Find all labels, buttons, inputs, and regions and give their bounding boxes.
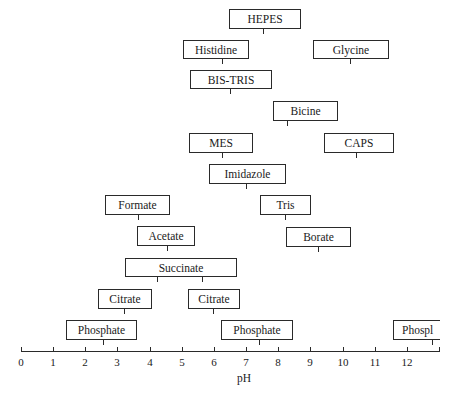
axis-title: pH (237, 372, 251, 384)
axis-tick (375, 347, 376, 352)
buffer-label: Phosphate (78, 324, 125, 336)
axis-tick (85, 347, 86, 352)
axis-tick-label: 12 (402, 356, 413, 368)
axis-tick (214, 347, 215, 352)
buffer-label: Phosphate (233, 324, 280, 336)
buffer-label: MES (209, 137, 233, 149)
buffer-box-bicine: Bicine (273, 101, 338, 121)
buffer-label: Glycine (333, 44, 369, 56)
pka-tick (432, 340, 433, 345)
axis-tick (310, 347, 311, 352)
buffer-box-imidazole: Imidazole (209, 164, 286, 184)
buffer-box-phospl: Phospl (393, 320, 440, 340)
pka-tick (103, 340, 104, 345)
axis-tick-label: 3 (114, 356, 120, 368)
buffer-box-phosphate: Phosphate (221, 320, 293, 340)
buffer-box-bis-tris: BIS-TRIS (190, 70, 272, 89)
buffer-label: Histidine (195, 44, 237, 56)
buffer-ph-range-diagram: HEPESHistidineGlycineBIS-TRISBicineMESCA… (0, 0, 455, 399)
pka-tick (285, 215, 286, 220)
buffer-box-borate: Borate (286, 227, 351, 247)
axis-tick-label: 7 (243, 356, 249, 368)
pka-tick (263, 29, 264, 34)
buffer-box-formate: Formate (105, 195, 170, 215)
axis-tick (246, 347, 247, 352)
pka-tick (157, 277, 158, 282)
pka-tick (318, 247, 319, 252)
buffer-box-succinate: Succinate (125, 258, 237, 277)
pka-tick (202, 277, 203, 282)
buffer-label: Acetate (148, 230, 183, 242)
pka-tick (356, 153, 357, 158)
buffer-box-tris: Tris (260, 195, 311, 215)
buffer-label: Succinate (159, 262, 204, 274)
pka-tick (230, 89, 231, 94)
axis-tick-label: 6 (211, 356, 217, 368)
buffer-label: Imidazole (225, 168, 271, 180)
buffer-label: Phospl (402, 324, 433, 336)
buffer-box-histidine: Histidine (183, 40, 249, 59)
pka-tick (287, 121, 288, 126)
axis-tick (21, 347, 22, 352)
pka-tick (246, 184, 247, 189)
axis-tick-label: 2 (82, 356, 88, 368)
buffer-label: BIS-TRIS (208, 74, 255, 86)
buffer-box-mes: MES (189, 133, 253, 153)
pka-tick (259, 340, 260, 345)
buffer-label: Citrate (109, 293, 140, 305)
axis-tick (117, 347, 118, 352)
buffer-label: Citrate (198, 293, 229, 305)
axis-tick (343, 347, 344, 352)
buffer-label: Tris (276, 199, 294, 211)
axis-tick-label: 11 (370, 356, 381, 368)
buffer-box-hepes: HEPES (229, 9, 301, 29)
buffer-box-citrate: Citrate (98, 289, 152, 309)
axis-tick (53, 347, 54, 352)
pka-tick (124, 309, 125, 314)
axis-tick-label: 9 (307, 356, 313, 368)
buffer-label: HEPES (247, 13, 282, 25)
buffer-label: Borate (303, 231, 334, 243)
axis-tick (182, 347, 183, 352)
axis-tick (150, 347, 151, 352)
axis-tick-label: 8 (275, 356, 281, 368)
buffer-box-caps: CAPS (324, 133, 394, 153)
buffer-box-glycine: Glycine (313, 40, 389, 59)
pka-tick (222, 153, 223, 158)
pka-tick (167, 246, 168, 251)
buffer-label: Bicine (290, 105, 320, 117)
axis-tick (278, 347, 279, 352)
buffer-box-acetate: Acetate (137, 226, 195, 246)
axis-tick-label: 5 (179, 356, 185, 368)
buffer-label: CAPS (345, 137, 374, 149)
pka-tick (138, 215, 139, 220)
axis-tick-label: 10 (338, 356, 349, 368)
axis-tick-label: 0 (18, 356, 24, 368)
buffer-box-citrate: Citrate (188, 289, 240, 309)
axis-tick (407, 347, 408, 352)
pka-tick (222, 59, 223, 64)
axis-tick-label: 1 (50, 356, 56, 368)
axis-tick-end (439, 347, 440, 352)
axis-tick-label: 4 (147, 356, 153, 368)
pka-tick (350, 59, 351, 64)
axis-line (21, 351, 440, 352)
pka-tick (213, 309, 214, 314)
buffer-label: Formate (118, 199, 156, 211)
buffer-box-phosphate: Phosphate (66, 320, 137, 340)
